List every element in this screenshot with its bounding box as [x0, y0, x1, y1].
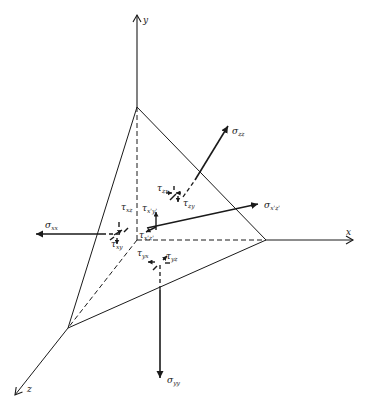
sigma-zz-label: σzz [232, 126, 245, 137]
shear-element-oblique-face [146, 212, 156, 232]
hidden-edges [68, 107, 266, 328]
sigma-xz-prime-arrow [147, 204, 258, 228]
tau-yx-label: τyx [137, 248, 149, 260]
x-axis-label: x [346, 227, 351, 237]
tau-zx-label: τzx [157, 183, 169, 194]
sigma-xx-label: σxx [45, 220, 59, 231]
hidden-edge-z [68, 240, 137, 328]
z-axis [15, 328, 68, 395]
tau-xz-label: τxz [121, 202, 133, 213]
sigma-xz-prime-label: σx'z' [264, 200, 280, 211]
tau-xy-prime-label: τx'y' [142, 203, 157, 215]
z-axis-label: z [26, 384, 32, 394]
sigma-yy-label: σyy [167, 375, 181, 387]
tetrahedron-edges [68, 107, 266, 328]
y-axis-label: y [142, 15, 149, 25]
tau-zy-label: τzy [183, 198, 195, 210]
edge-apex-z [68, 107, 137, 328]
stress-tetrahedron-diagram: y x z σzz σxx σyy σx'z' τzx τzy τxz τxy … [0, 0, 366, 407]
tau-yz-label: τyz [166, 251, 178, 263]
